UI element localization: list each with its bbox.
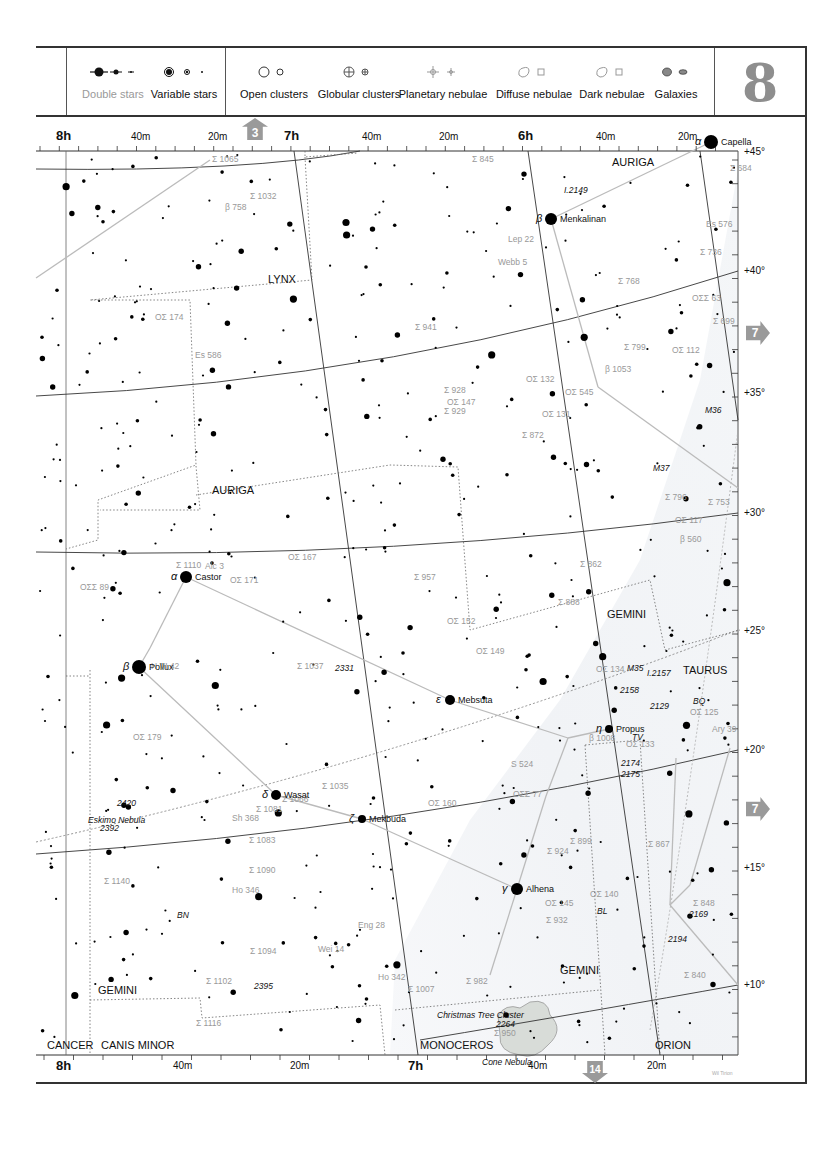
object-label: 2175 — [621, 769, 640, 779]
ra-label: 20m — [439, 131, 458, 142]
object-label: ΟΣΣ 77 — [513, 789, 542, 799]
object-label: Σ 840 — [684, 970, 706, 980]
bright-star — [180, 571, 192, 583]
object-label: ΟΣ 112 — [672, 345, 700, 355]
object-label: Σ 950 — [494, 1028, 516, 1038]
object-label: ΟΣΣ 63 — [692, 293, 721, 303]
ra-label: 40m — [131, 131, 150, 142]
object-label: ΟΣ 160 — [428, 798, 456, 808]
constellation-label: LYNX — [268, 273, 296, 285]
greek-letter: ε — [436, 693, 441, 705]
object-label: I.2149 — [564, 185, 588, 195]
object-label: Σ 1094 — [250, 946, 277, 956]
object-label: β 1053 — [605, 364, 631, 374]
object-label: 2158 — [620, 685, 639, 695]
greek-letter: α — [171, 570, 177, 582]
object-label: 2420 — [117, 798, 136, 808]
object-label: Σ 1032 — [250, 191, 277, 201]
object-label: Σ 799 — [624, 342, 646, 352]
constellation-label: GEMINI — [98, 984, 137, 996]
ra-label: 40m — [173, 1060, 192, 1071]
dec-label: +25° — [744, 625, 765, 636]
constellation-label: GEMINI — [607, 608, 646, 620]
object-label: Σ 1083 — [249, 835, 276, 845]
object-label: Σ 957 — [414, 572, 436, 582]
object-label: 2331 — [335, 663, 354, 673]
object-label: Σ 736 — [700, 247, 722, 257]
constellation-label: TAURUS — [683, 664, 727, 676]
object-label: ΟΣ 133 — [626, 739, 654, 749]
object-label: Σ 1102 — [206, 976, 232, 986]
object-label: ΟΣ 171 — [230, 575, 258, 585]
greek-letter: γ — [502, 882, 508, 894]
object-label: Σ 941 — [415, 322, 437, 332]
object-label: Σ 867 — [648, 839, 670, 849]
constellation-label: CANCER — [47, 1039, 93, 1051]
object-label: Ho 342 — [378, 972, 405, 982]
object-label: Alc 3 — [205, 561, 224, 571]
star-name: Castor — [195, 572, 222, 582]
dec-label: +35° — [744, 387, 765, 398]
dec-label: +20° — [744, 744, 765, 755]
object-label: ΟΣ 545 — [565, 387, 593, 397]
ra-line-7h — [294, 151, 418, 1055]
greek-letter: ζ — [349, 812, 354, 824]
object-label: Σ 753 — [708, 497, 730, 507]
bright-star — [358, 815, 366, 823]
ra-label: 7h — [408, 1058, 423, 1073]
object-label: Lep 22 — [508, 234, 534, 244]
dec-label: +15° — [744, 862, 765, 873]
object-label: Σ 872 — [522, 430, 544, 440]
ra-label: 7h — [284, 128, 299, 143]
object-label: 2194 — [668, 934, 687, 944]
star-name: Mekbuda — [369, 814, 406, 824]
object-label: 2392 — [100, 823, 119, 833]
object-label: Σ 1116 — [196, 1018, 221, 1028]
object-label: Σ 1090 — [249, 865, 276, 875]
bright-star — [271, 790, 281, 800]
star-name: Mebsuta — [458, 695, 493, 705]
greek-letter: δ — [262, 788, 268, 800]
greek-letter: α — [695, 135, 701, 147]
object-label: M35 — [627, 663, 644, 673]
greek-letter: η — [596, 722, 602, 734]
bright-star — [511, 883, 523, 895]
object-label: ΟΣ 131 — [542, 409, 570, 419]
object-label: Σ 845 — [472, 154, 494, 164]
ra-label: 20m — [290, 1060, 309, 1071]
object-label: Eng 28 — [358, 920, 385, 930]
object-label: Σ 1007 — [408, 984, 435, 994]
ra-label: 40m — [596, 131, 615, 142]
object-label: Σ 928 — [444, 385, 466, 395]
bright-star — [445, 695, 455, 705]
object-label: ΟΣ 145 — [545, 898, 573, 908]
object-label: β 1008 — [589, 733, 615, 743]
star-map — [0, 0, 824, 1156]
greek-letter: β — [123, 660, 129, 672]
object-label: Σ 862 — [580, 559, 602, 569]
object-label: 2174 — [621, 758, 640, 768]
object-label: S 524 — [511, 759, 533, 769]
object-label: ΟΣ 132 — [526, 374, 554, 384]
object-label: BN — [177, 910, 189, 920]
bright-star — [704, 135, 718, 149]
object-label: ΟΣ 140 — [590, 889, 618, 899]
object-label: Σ 1037 — [297, 661, 324, 671]
object-label: BL — [597, 906, 607, 916]
object-label: Ary 39 — [712, 724, 737, 734]
object-label: Sh 368 — [232, 813, 259, 823]
object-label: Σ 768 — [618, 276, 640, 286]
object-label: Σ 982 — [466, 976, 488, 986]
greek-letter: β — [536, 212, 542, 224]
object-label: Cone Nebula — [482, 1057, 532, 1067]
object-label: I.2157 — [647, 668, 671, 678]
ra-label: 20m — [208, 131, 227, 142]
dec-label: +30° — [744, 507, 765, 518]
object-label: Σ 796 — [665, 492, 687, 502]
ra-label: 8h — [56, 128, 71, 143]
constellation-label: CANIS MINOR — [101, 1039, 174, 1051]
star-name: Menkalinan — [560, 214, 606, 224]
object-label: M37 — [653, 463, 670, 473]
object-label: β 758 — [225, 202, 246, 212]
object-label: ΟΣΣ 89 — [80, 582, 109, 592]
